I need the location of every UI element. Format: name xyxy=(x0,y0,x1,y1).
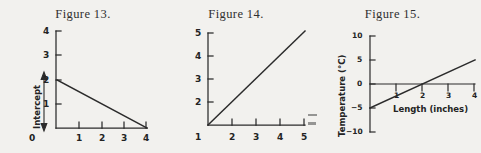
figure-13-y-label-3: 3 xyxy=(43,51,49,60)
figure-15-y-axis-title: Temperature (°C) xyxy=(338,55,347,137)
figure-14-x-label-2: 2 xyxy=(229,133,235,142)
figure-15-x-label-2: 2 xyxy=(420,92,425,100)
figure-13-y-label-2: 2 xyxy=(43,76,49,85)
figure-14-y-label-2: 2 xyxy=(195,98,201,107)
figure-15-y-label-0: 0 xyxy=(357,80,362,88)
figure-14-x-label-1: 1 xyxy=(195,133,201,142)
figure-14-y-label-4: 4 xyxy=(195,52,201,61)
figure-15-x-axis-title: Length (inches) xyxy=(393,105,468,114)
figure-13-x-label-4: 4 xyxy=(143,134,149,143)
figure-15-y-label-5: 5 xyxy=(357,56,362,64)
figure-14-x-label-5: 5 xyxy=(301,133,307,142)
figure-15-y-label-neg10: −10 xyxy=(346,128,363,136)
figure-13: Figure 13. xyxy=(0,0,160,153)
figure-sheet: Figure 13. xyxy=(0,0,481,153)
figure-13-x-label-0: 0 xyxy=(29,134,35,143)
figure-15-x-label-3: 3 xyxy=(446,92,451,100)
figure-15-x-label-4: 4 xyxy=(472,92,477,100)
figure-15: Figure 15. xyxy=(310,0,481,153)
figure-14-y-label-3: 3 xyxy=(195,75,201,84)
figure-13-x-label-2: 2 xyxy=(99,134,105,143)
figure-14-plot xyxy=(160,0,310,153)
figure-15-x-label-1: 1 xyxy=(394,92,399,100)
figure-13-x-label-1: 1 xyxy=(76,134,82,143)
figure-14-y-label-5: 5 xyxy=(195,29,201,38)
figure-14: Figure 14. 5 4 3 xyxy=(160,0,310,153)
figure-14-x-label-3: 3 xyxy=(253,133,259,142)
figure-13-intercept-label: Intercept xyxy=(33,85,42,129)
figure-15-y-label-neg5: −5 xyxy=(351,104,363,112)
figure-15-y-label-10: 10 xyxy=(352,32,362,40)
figure-13-y-label-4: 4 xyxy=(43,27,49,36)
figure-13-y-label-1: 1 xyxy=(43,100,49,109)
data-line-14 xyxy=(208,31,305,125)
figure-13-x-label-3: 3 xyxy=(121,134,127,143)
figure-13-plot xyxy=(0,0,160,153)
figure-15-plot xyxy=(310,0,481,153)
figure-14-x-label-4: 4 xyxy=(277,133,283,142)
data-line-13 xyxy=(57,80,147,128)
